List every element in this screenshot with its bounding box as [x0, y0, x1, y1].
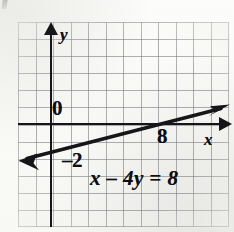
x-intercept-label: 8: [157, 126, 168, 147]
origin-label: 0: [52, 98, 62, 119]
equation-label: x – 4y = 8: [90, 168, 178, 189]
y-intercept-label: –2: [62, 150, 82, 171]
x-axis-label: x: [204, 131, 213, 148]
plotted-line: [0, 0, 234, 232]
y-axis-label: y: [60, 26, 68, 43]
line-x-minus-4y-equals-8: [19, 105, 231, 171]
graph-figure: y x 0 –2 8 x – 4y = 8: [0, 0, 234, 232]
line-left-arrowhead-icon: [19, 153, 40, 170]
